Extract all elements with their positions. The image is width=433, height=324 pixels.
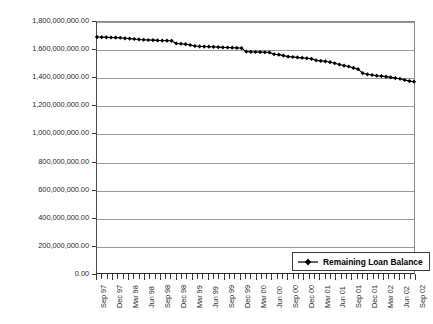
x-axis-tick-label: Sep 97	[99, 285, 108, 308]
series-data-point	[230, 46, 234, 50]
y-axis-tick-label: 1,800,000,000.00	[32, 16, 89, 25]
x-axis-minor-tick	[229, 274, 230, 279]
series-data-point	[137, 37, 141, 41]
x-axis-tick-label: Mar 01	[323, 285, 332, 308]
series-data-point	[291, 55, 295, 59]
y-axis-tick-label: 200,000,000.00	[38, 241, 89, 250]
x-axis-minor-tick	[155, 274, 156, 279]
series-data-point	[347, 64, 351, 68]
x-axis-minor-tick	[298, 274, 299, 279]
x-axis-major-tick	[208, 274, 209, 280]
y-axis-tick-label: 800,000,000.00	[38, 157, 89, 166]
x-axis-major-tick	[383, 274, 384, 280]
series-data-point	[109, 35, 113, 39]
x-axis-minor-tick	[325, 274, 326, 279]
series-data-point	[174, 41, 178, 45]
x-axis-tick-label: Mar 02	[386, 285, 395, 308]
series-data-point	[123, 36, 127, 40]
x-axis-minor-tick	[133, 274, 134, 279]
series-data-point	[295, 55, 299, 59]
series-data-point	[379, 74, 383, 78]
series-data-point	[342, 64, 346, 68]
x-axis-minor-tick	[139, 274, 140, 279]
x-axis-minor-tick	[373, 274, 374, 279]
x-axis-minor-tick	[357, 274, 358, 279]
x-axis-major-tick	[287, 274, 288, 280]
series-data-point	[328, 60, 332, 64]
series-data-point	[142, 38, 146, 42]
x-axis-tick-label: Jun 00	[275, 286, 284, 308]
x-axis-major-tick	[176, 274, 177, 280]
series-data-point	[389, 75, 393, 79]
x-axis-minor-tick	[378, 274, 379, 279]
x-axis-minor-tick	[117, 274, 118, 279]
x-axis-minor-tick	[202, 274, 203, 279]
x-axis-minor-tick	[394, 274, 395, 279]
x-axis-minor-tick	[197, 274, 198, 279]
series-data-point	[412, 80, 416, 84]
x-axis-minor-tick	[309, 274, 310, 279]
y-axis-tick-label: 1,600,000,000.00	[32, 44, 89, 53]
x-axis-major-tick	[224, 274, 225, 280]
x-axis-tick-label: Sep 00	[291, 285, 300, 308]
x-axis-minor-tick	[107, 274, 108, 279]
x-axis-minor-tick	[282, 274, 283, 279]
plot-area	[96, 21, 415, 274]
x-axis-minor-tick	[293, 274, 294, 279]
x-axis-minor-tick	[245, 274, 246, 279]
series-data-point	[211, 45, 215, 49]
y-axis-tick-label: 0.00	[75, 269, 89, 278]
series-canvas	[97, 22, 414, 273]
x-axis-tick-label: Jun 02	[402, 286, 411, 308]
x-axis-minor-tick	[165, 274, 166, 279]
y-axis-tick-label: 400,000,000.00	[38, 213, 89, 222]
series-data-point	[118, 36, 122, 40]
series-data-point	[272, 52, 276, 56]
series-data-point	[258, 50, 262, 54]
series-data-point	[225, 45, 229, 49]
series-data-point	[104, 35, 108, 39]
series-data-point	[160, 38, 164, 42]
x-axis-minor-tick	[330, 274, 331, 279]
series-data-point	[333, 61, 337, 65]
x-axis-major-tick	[367, 274, 368, 280]
x-axis-minor-tick	[234, 274, 235, 279]
series-data-point	[286, 54, 290, 58]
series-data-point	[216, 45, 220, 49]
x-axis-minor-tick	[341, 274, 342, 279]
series-data-point	[281, 54, 285, 58]
series-data-point	[300, 56, 304, 60]
series-data-point	[193, 44, 197, 48]
series-data-point	[156, 38, 160, 42]
x-axis-tick-label: Dec 01	[370, 285, 379, 308]
x-axis-minor-tick	[346, 274, 347, 279]
series-data-point	[100, 35, 104, 39]
x-axis-minor-tick	[218, 274, 219, 279]
x-axis-major-tick	[144, 274, 145, 280]
series-data-point	[305, 56, 309, 60]
x-axis-major-tick	[128, 274, 129, 280]
series-data-point	[179, 42, 183, 46]
series-data-point	[323, 59, 327, 63]
x-axis-major-tick	[351, 274, 352, 280]
x-axis-minor-tick	[362, 274, 363, 279]
series-data-point	[370, 73, 374, 77]
x-axis-tick-label: Sep 01	[354, 285, 363, 308]
series-data-point	[277, 53, 281, 57]
series-data-point	[263, 50, 267, 54]
series-data-point	[165, 39, 169, 43]
y-axis-tick-label: 1,200,000,000.00	[32, 100, 89, 109]
series-data-point	[314, 58, 318, 62]
x-axis-tick-label: Dec 97	[115, 285, 124, 308]
series-marker-group	[95, 35, 416, 84]
y-axis-tick-label: 600,000,000.00	[38, 185, 89, 194]
x-axis-major-tick	[271, 274, 272, 280]
legend-marker-icon	[297, 257, 319, 267]
x-axis-minor-tick	[123, 274, 124, 279]
series-data-point	[393, 76, 397, 80]
series-data-point	[267, 50, 271, 54]
x-axis-major-tick	[303, 274, 304, 280]
x-axis-minor-tick	[388, 274, 389, 279]
x-axis-major-tick	[256, 274, 257, 280]
x-axis-tick-label: Jun 01	[338, 286, 347, 308]
